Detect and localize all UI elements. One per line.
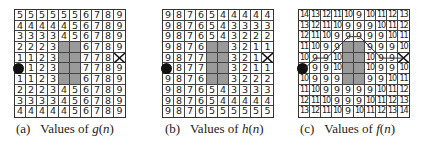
grid-cell: 3 xyxy=(48,85,59,96)
grid-cell: 5 xyxy=(207,31,218,42)
grid-cell: 9 xyxy=(163,106,174,117)
grid-cell: 10 xyxy=(310,85,321,96)
grid-cell: 10 xyxy=(365,96,376,107)
caption-c-label: (c) xyxy=(300,121,314,136)
caption-a-text: Values of xyxy=(40,121,92,136)
grid-cell: 9 xyxy=(321,85,332,96)
grid-cell: 12 xyxy=(387,10,398,21)
caption-a: (a) Values of g(n) xyxy=(16,121,114,137)
grid-cell: 5 xyxy=(207,106,218,117)
grid-cell xyxy=(343,42,354,53)
grid-cell: 9 xyxy=(365,85,376,96)
grid-cell: 12 xyxy=(398,85,409,96)
grid-cell: 12 xyxy=(299,31,310,42)
grid-cell: 11 xyxy=(321,21,332,32)
grid-cell: 11 xyxy=(387,85,398,96)
grid-cell: 2 xyxy=(26,85,37,96)
grid-cell: 4 xyxy=(59,85,70,96)
grid-cell: 13 xyxy=(310,10,321,21)
grid-cell: 4 xyxy=(48,106,59,117)
grid-cell: 10 xyxy=(299,74,310,85)
grid-cell: 11 xyxy=(398,74,409,85)
grid-cell: 1 xyxy=(15,53,26,64)
grid-cell: 4 xyxy=(15,106,26,117)
grid-cell: 10 xyxy=(354,106,365,117)
grid-cell: 9 xyxy=(343,31,354,42)
grid-cell: 9 xyxy=(365,42,376,53)
grid-cell xyxy=(218,53,229,64)
grid-cell: 13 xyxy=(299,106,310,117)
grid-cell: 13 xyxy=(387,106,398,117)
grid-cell: 9 xyxy=(114,42,125,53)
grid-cell: 5 xyxy=(251,106,262,117)
grid-cell: 11 xyxy=(310,96,321,107)
grid-cell: 3 xyxy=(262,85,273,96)
grid-cell: 13 xyxy=(299,21,310,32)
grid-cell: 10 xyxy=(332,53,343,64)
grid-cell: 14 xyxy=(398,106,409,117)
grid-cell xyxy=(354,42,365,53)
grid-cell: 9 xyxy=(163,53,174,64)
panel-g-values: 5555556789444445678933334567892223678911… xyxy=(14,9,126,118)
grid-cell: 8 xyxy=(103,85,114,96)
grid-cell: 8 xyxy=(103,106,114,117)
goal-x-icon xyxy=(114,53,125,63)
grid-cell: 8 xyxy=(174,106,185,117)
grid-cell xyxy=(207,42,218,53)
grid-cell: 11 xyxy=(321,106,332,117)
grid-cell xyxy=(207,63,218,74)
grid-cell: 4 xyxy=(59,31,70,42)
grid-cell: 6 xyxy=(81,106,92,117)
caption-b-label: (b) xyxy=(165,121,180,136)
grid-cell: 5 xyxy=(262,106,273,117)
grid-cell: 10 xyxy=(332,106,343,117)
goal-x-icon xyxy=(398,53,409,63)
grid-cell: 11 xyxy=(310,31,321,42)
grid-cell: 13 xyxy=(398,10,409,21)
grid-cell: 9 xyxy=(354,31,365,42)
grid-cell: 5 xyxy=(70,85,81,96)
grid-cell xyxy=(70,42,81,53)
grid-cell: 11 xyxy=(332,10,343,21)
grid-cell: 12 xyxy=(299,96,310,107)
grid-cell xyxy=(59,53,70,64)
caption-b-text: Values of xyxy=(190,121,242,136)
grid-cell: 6 xyxy=(196,106,207,117)
grid-cell: 9 xyxy=(114,106,125,117)
grid-cell xyxy=(299,63,310,74)
grid-cell xyxy=(398,53,409,64)
grid-cell: 3 xyxy=(229,85,240,96)
grid-cell: 3 xyxy=(240,85,251,96)
grid-cell: 11 xyxy=(299,42,310,53)
grid-cell: 10 xyxy=(365,53,376,64)
grid-cell: 12 xyxy=(310,21,321,32)
grid-cell: 5 xyxy=(70,31,81,42)
grid-cell xyxy=(59,42,70,53)
grid-cell: 9 xyxy=(343,85,354,96)
grid-cell: 11 xyxy=(387,21,398,32)
grid-cell: 4 xyxy=(59,106,70,117)
grid-cell: 11 xyxy=(365,106,376,117)
grid-cell: 10 xyxy=(376,85,387,96)
grid-cell: 9 xyxy=(354,96,365,107)
grid-cell xyxy=(218,42,229,53)
grid-cell: 12 xyxy=(376,106,387,117)
grid-cell: 5 xyxy=(207,85,218,96)
grid-cell xyxy=(343,63,354,74)
grid-f: 1413121110910111213131211109991011121211… xyxy=(298,9,410,118)
grid-cell xyxy=(70,63,81,74)
grid-cell: 11 xyxy=(376,96,387,107)
grid-cell: 11 xyxy=(299,85,310,96)
panel-f-values: 1413121110910111213131211109991011121211… xyxy=(298,9,410,118)
grid-cell xyxy=(354,53,365,64)
grid-cell: 4 xyxy=(218,31,229,42)
grid-cell: 10 xyxy=(321,96,332,107)
grid-cell: 12 xyxy=(310,106,321,117)
grid-cell xyxy=(354,63,365,74)
caption-b: (b) Values of h(n) xyxy=(165,121,264,137)
grid-cell: 4 xyxy=(37,106,48,117)
grid-cell: 2 xyxy=(37,85,48,96)
grid-cell: 5 xyxy=(70,106,81,117)
grid-cell: 10 xyxy=(398,63,409,74)
grid-cell: 7 xyxy=(185,106,196,117)
